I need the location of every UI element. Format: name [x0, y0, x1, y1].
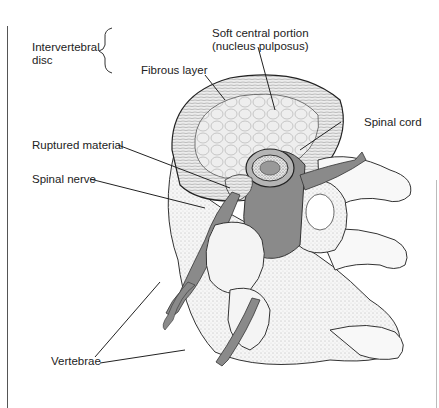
label-soft-central-portion: Soft central portion (nucleus pulposus)	[212, 27, 309, 53]
label-intervertebral-disc: Intervertebral disc	[32, 41, 100, 67]
label-soft-central-line2: (nucleus pulposus)	[212, 40, 309, 53]
articular-process-left	[206, 222, 264, 293]
label-spinal-cord: Spinal cord	[364, 116, 422, 129]
spinal-cord-gray-matter	[260, 161, 280, 175]
label-intervertebral-disc-line1: Intervertebral	[32, 41, 100, 54]
label-intervertebral-disc-line2: disc	[32, 54, 100, 67]
label-ruptured-material: Ruptured material	[32, 139, 123, 152]
label-fibrous-layer: Fibrous layer	[141, 64, 207, 77]
label-soft-central-line1: Soft central portion	[212, 27, 309, 40]
label-spinal-nerve: Spinal nerve	[32, 173, 96, 186]
label-vertebrae: Vertebrae	[51, 355, 101, 368]
bracket-intervertebral-disc	[99, 28, 112, 73]
vertebral-foramen-hole	[306, 194, 334, 230]
